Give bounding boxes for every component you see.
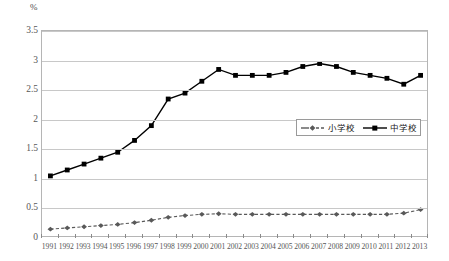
data-point-diamond-marker xyxy=(132,220,138,225)
x-axis-tick-mark xyxy=(159,234,160,238)
x-axis-tick-label: 1991 xyxy=(42,242,57,251)
x-axis-tick-label: 2002 xyxy=(227,242,242,251)
x-axis-tick-mark xyxy=(344,234,345,238)
x-axis-tick-mark xyxy=(41,234,42,238)
data-point-diamond-marker xyxy=(199,212,205,217)
y-axis-tick-label: 3 xyxy=(4,55,38,65)
x-axis-tick-label: 1994 xyxy=(92,242,107,251)
x-axis-tick-mark xyxy=(243,234,244,238)
x-axis-tick-mark xyxy=(361,234,362,238)
data-point-square-marker xyxy=(48,174,53,179)
x-axis-tick-label: 2006 xyxy=(294,242,309,251)
x-axis-tick-label: 1996 xyxy=(126,242,141,251)
legend-entry-junior-high: 中学校 xyxy=(362,123,417,133)
x-axis-tick-mark xyxy=(277,234,278,238)
x-axis-tick-label: 2005 xyxy=(277,242,292,251)
data-point-square-marker xyxy=(98,156,103,161)
x-axis-tick-label: 2008 xyxy=(328,242,343,251)
data-point-diamond-marker xyxy=(165,215,171,220)
x-axis-tick-mark xyxy=(293,234,294,238)
data-point-square-marker xyxy=(300,64,305,69)
x-axis-tick-label: 1992 xyxy=(59,242,74,251)
x-axis-tick-mark xyxy=(108,234,109,238)
x-axis-tick-label: 2001 xyxy=(210,242,225,251)
y-axis-tick-label: 1 xyxy=(4,173,38,183)
legend-label-elementary: 小学校 xyxy=(328,123,355,133)
data-point-diamond-marker xyxy=(367,212,373,217)
x-axis-tick-label: 2012 xyxy=(395,242,410,251)
x-axis-tick-label: 2004 xyxy=(261,242,276,251)
data-point-square-marker xyxy=(334,64,339,69)
data-point-diamond-marker xyxy=(350,212,356,217)
data-point-diamond-marker xyxy=(64,226,70,231)
data-point-square-marker xyxy=(267,73,272,78)
gridline xyxy=(42,179,427,180)
data-point-square-marker xyxy=(368,73,373,78)
data-point-diamond-marker xyxy=(48,227,54,232)
gridline xyxy=(42,149,427,150)
legend-entry-elementary: 小学校 xyxy=(300,123,355,133)
gridline xyxy=(42,208,427,209)
x-axis-tick-mark xyxy=(142,234,143,238)
x-axis-tick-mark xyxy=(327,234,328,238)
data-point-diamond-marker xyxy=(216,211,222,216)
data-point-diamond-marker xyxy=(233,212,239,217)
data-point-diamond-marker xyxy=(266,212,272,217)
x-axis-tick-mark xyxy=(125,234,126,238)
y-axis-tick-label: 3.5 xyxy=(4,25,38,35)
data-point-square-marker xyxy=(149,123,154,128)
data-point-square-marker xyxy=(166,97,171,102)
y-axis-tick-label: 2.5 xyxy=(4,84,38,94)
data-point-diamond-marker xyxy=(81,224,87,229)
x-axis-tick-mark xyxy=(260,234,261,238)
x-axis-tick-mark xyxy=(310,234,311,238)
x-axis-tick-label: 2010 xyxy=(362,242,377,251)
chart-screenshot: % 00.511.522.533.5 199119921993199419951… xyxy=(0,0,449,261)
data-point-diamond-marker xyxy=(283,212,289,217)
gridline xyxy=(42,61,427,62)
data-point-square-marker xyxy=(216,67,221,72)
data-point-diamond-marker xyxy=(182,213,188,218)
y-axis-tick-label: 1.5 xyxy=(4,143,38,153)
gridline xyxy=(42,90,427,91)
x-axis-tick-mark xyxy=(226,234,227,238)
data-point-square-marker xyxy=(82,162,87,167)
x-axis-tick-mark xyxy=(176,234,177,238)
x-axis-tick-mark xyxy=(75,234,76,238)
x-axis-tick-label: 1995 xyxy=(109,242,124,251)
y-axis-tick-label: 0 xyxy=(4,232,38,242)
data-point-square-marker xyxy=(351,70,356,75)
data-point-square-marker xyxy=(183,91,188,96)
y-axis-tick-label: 0.5 xyxy=(4,202,38,212)
data-point-diamond-marker xyxy=(401,211,407,216)
x-axis-tick-mark xyxy=(411,234,412,238)
x-axis-tick-mark xyxy=(427,234,428,238)
data-point-diamond-marker xyxy=(384,212,390,217)
x-axis-tick-label: 1999 xyxy=(176,242,191,251)
gridline xyxy=(42,31,427,32)
x-axis-tick-label: 2011 xyxy=(378,242,393,251)
data-point-square-marker xyxy=(132,138,137,143)
data-point-diamond-marker xyxy=(249,212,255,217)
x-axis-tick-label: 1997 xyxy=(143,242,158,251)
x-axis-tick-mark xyxy=(378,234,379,238)
data-point-square-marker xyxy=(284,70,289,75)
x-axis-tick-mark xyxy=(394,234,395,238)
x-axis-tick-label: 2009 xyxy=(345,242,360,251)
x-axis-tick-mark xyxy=(209,234,210,238)
data-point-square-marker xyxy=(401,82,406,87)
y-axis: 00.511.522.533.5 xyxy=(0,0,38,261)
x-axis: 1991199219931994199519961997199819992000… xyxy=(41,238,428,260)
square-marker-icon xyxy=(362,123,388,133)
data-point-diamond-marker xyxy=(98,223,104,228)
x-axis-tick-label: 2013 xyxy=(412,242,427,251)
data-point-diamond-marker xyxy=(334,212,340,217)
x-axis-tick-label: 2007 xyxy=(311,242,326,251)
data-point-square-marker xyxy=(233,73,238,78)
x-axis-tick-label: 1998 xyxy=(160,242,175,251)
y-axis-tick-label: 2 xyxy=(4,114,38,124)
legend-label-junior-high: 中学校 xyxy=(390,123,417,133)
data-point-square-marker xyxy=(385,76,390,81)
x-axis-tick-mark xyxy=(91,234,92,238)
data-point-square-marker xyxy=(199,79,204,84)
